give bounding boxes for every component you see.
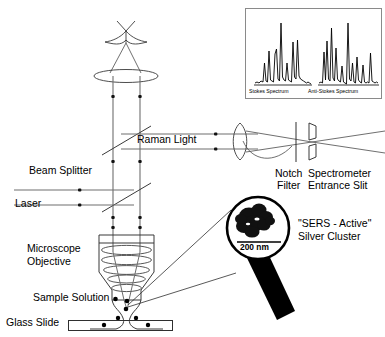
- magnifier-leader-lines: [128, 210, 236, 307]
- label-laser: Laser: [15, 198, 41, 210]
- label-spectrometer-line2: Entrance Slit: [308, 180, 368, 192]
- objective-internal-lenses: [102, 245, 152, 291]
- label-stokes-spectrum: Stokes Spectrum: [249, 88, 289, 94]
- converging-beam-top: [110, 43, 141, 73]
- label-notch-filter-line1: Notch: [275, 168, 302, 180]
- raman-sers-schematic-figure: Raman Light Beam Splitter Laser Notch Fi…: [0, 0, 385, 337]
- label-sers-active-line1: "SERS - Active": [298, 218, 371, 230]
- wavefront-arc: [243, 141, 292, 158]
- sample-droplet: [90, 300, 163, 329]
- label-microscope-objective-line2: Objective: [27, 256, 71, 268]
- beam-splitter-lower: [102, 183, 151, 212]
- label-scale-bar: 200 nm: [240, 243, 269, 252]
- collection-lens: [94, 70, 158, 83]
- label-anti-stokes-spectrum: Anti-Stokes Spectrum: [308, 88, 358, 94]
- spectrometer-ray-paths: [246, 131, 385, 153]
- label-sample-solution: Sample Solution: [33, 292, 109, 304]
- spectra-inset: [246, 9, 382, 99]
- label-notch-filter-line2: Filter: [277, 180, 300, 192]
- detector-flare: [105, 21, 147, 44]
- laser-direction-markers: [78, 189, 81, 207]
- label-beam-splitter: Beam Splitter: [29, 165, 92, 177]
- focus-lens: [233, 123, 247, 160]
- label-sers-active-line2: Silver Cluster: [298, 231, 360, 243]
- raman-direction-markers: [214, 133, 217, 151]
- label-spectrometer-line1: Spectrometer: [308, 168, 371, 180]
- vertical-beam-rails: [113, 76, 140, 252]
- label-raman-light: Raman Light: [137, 134, 197, 146]
- beam-direction-markers: [111, 95, 141, 229]
- label-microscope-objective-line1: Microscope: [27, 243, 81, 255]
- label-glass-slide: Glass Slide: [6, 317, 59, 329]
